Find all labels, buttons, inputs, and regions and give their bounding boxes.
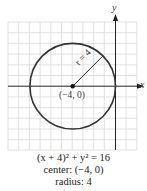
radius-caption: radius: 4 (0, 176, 147, 188)
circle-graph (0, 0, 147, 152)
center-caption: center: (−4, 0) (0, 164, 147, 176)
y-axis-arrow-icon (113, 14, 118, 21)
center-point (71, 84, 75, 88)
center-label: (−4, 0) (58, 90, 86, 100)
x-axis-label: x (140, 79, 144, 90)
y-axis-label: y (112, 2, 116, 13)
equation-caption: (x + 4)² + y² = 16 (0, 152, 147, 164)
